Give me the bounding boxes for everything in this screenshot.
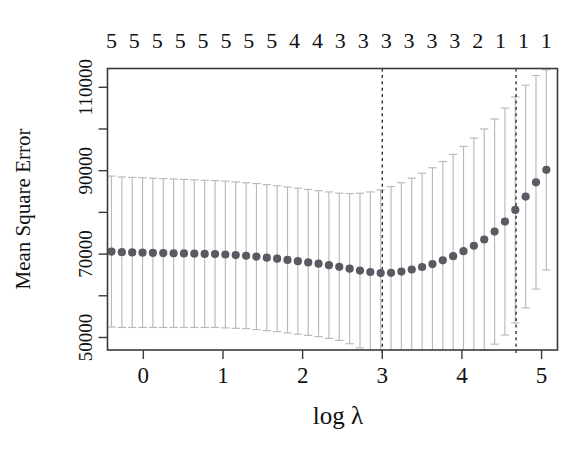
data-point (449, 252, 457, 260)
top-axis-tick-label: 5 (106, 28, 117, 53)
data-point (439, 256, 447, 264)
top-axis-tick-label: 5 (198, 28, 209, 53)
x-tick-label: 4 (456, 363, 468, 388)
top-axis-tick-label: 5 (175, 28, 186, 53)
data-point (480, 235, 488, 243)
data-point (397, 267, 405, 275)
top-axis-tick-label: 3 (335, 28, 346, 53)
plot-frame-rect (108, 69, 558, 351)
y-axis-title: Mean Square Error (11, 129, 35, 290)
error-bars-group (107, 70, 550, 350)
data-point (232, 251, 240, 259)
top-axis-tick-label: 1 (495, 28, 506, 53)
data-point (325, 261, 333, 269)
top-axis-tick-label: 5 (152, 28, 163, 53)
x-tick-label: 5 (536, 363, 548, 388)
data-point (511, 206, 519, 214)
data-point (459, 247, 467, 255)
data-point (304, 258, 312, 266)
data-point (418, 263, 426, 271)
data-point (149, 249, 157, 257)
top-axis-tick-label: 4 (289, 28, 300, 53)
top-axis-tick-label: 5 (220, 28, 231, 53)
x-axis-title: log λ (313, 402, 363, 429)
data-point (128, 248, 136, 256)
top-axis-tick-label: 3 (358, 28, 369, 53)
data-point (501, 217, 509, 225)
top-axis-tick-label: 1 (518, 28, 529, 53)
data-point (314, 260, 322, 268)
y-tick-label: 110000 (75, 59, 96, 115)
x-tick-label: 0 (138, 363, 150, 388)
x-tick-label: 2 (297, 363, 309, 388)
top-axis-tick-label: 2 (472, 28, 483, 53)
y-tick-label: 70000 (75, 230, 96, 278)
data-point (346, 265, 354, 273)
y-tick-label: 90000 (75, 147, 96, 195)
data-point (118, 248, 126, 256)
data-point (294, 257, 302, 265)
top-axis-tick-label: 3 (426, 28, 437, 53)
top-axis-tick-label: 5 (129, 28, 140, 53)
data-point (190, 250, 198, 258)
vertical-reference-lines-group (382, 69, 516, 357)
data-point (221, 250, 229, 258)
top-axis-tick-label: 3 (381, 28, 392, 53)
data-point (252, 252, 260, 260)
data-point (180, 249, 188, 257)
data-point (387, 269, 395, 277)
data-point (201, 250, 209, 258)
data-point (522, 192, 530, 200)
data-point (470, 242, 478, 250)
data-point (211, 250, 219, 258)
data-point (273, 255, 281, 263)
top-axis-tick-label: 5 (266, 28, 277, 53)
data-point (335, 263, 343, 271)
top-axis-group: 55555555443333332111 (106, 28, 552, 53)
top-axis-tick-label: 3 (449, 28, 460, 53)
data-point (532, 178, 540, 186)
data-point (242, 252, 250, 260)
data-point (428, 260, 436, 268)
data-point (138, 249, 146, 257)
data-point (170, 249, 178, 257)
data-point (490, 227, 498, 235)
x-tick-label: 1 (217, 363, 229, 388)
data-point (542, 166, 550, 174)
top-axis-tick-label: 3 (404, 28, 415, 53)
data-point (408, 265, 416, 273)
data-point (356, 266, 364, 274)
y-tick-label: 50000 (75, 314, 96, 362)
top-axis-tick-label: 5 (243, 28, 254, 53)
top-axis-tick-label: 4 (312, 28, 323, 53)
data-point (107, 247, 115, 255)
cv-plot-svg: 012345 500007000090000110000 55555555443… (0, 0, 588, 450)
data-point (159, 249, 167, 257)
x-tick-label: 3 (377, 363, 389, 388)
data-point (263, 254, 271, 262)
plot-box-frame (108, 69, 558, 351)
cv-plot-figure: 012345 500007000090000110000 55555555443… (0, 0, 588, 450)
data-point (377, 269, 385, 277)
y-axis-group: 500007000090000110000 (75, 59, 108, 361)
x-axis-group: 012345 (138, 350, 548, 388)
data-point (366, 268, 374, 276)
data-point (283, 256, 291, 264)
top-axis-tick-label: 1 (541, 28, 552, 53)
